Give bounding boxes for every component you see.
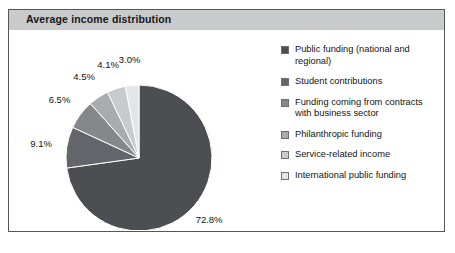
plot-area: 72.8%9.1%6.5%4.5%4.1%3.0% Public funding… — [9, 30, 444, 232]
pie-slice-label: 4.1% — [97, 58, 119, 69]
pie-chart: 72.8%9.1%6.5%4.5%4.1%3.0% — [22, 34, 262, 230]
legend-item-label: International public funding — [295, 170, 406, 182]
legend-item[interactable]: International public funding — [281, 170, 441, 182]
legend-item-label: Philanthropic funding — [295, 129, 382, 141]
page-title: Average income distribution — [26, 13, 171, 25]
legend-item[interactable]: Public funding (national and regional) — [281, 44, 441, 67]
legend-item[interactable]: Service-related income — [281, 149, 441, 161]
chart-title-bar: Average income distribution — [9, 10, 444, 30]
pie-slice-label: 3.0% — [119, 54, 141, 65]
pie-slice-label: 4.5% — [73, 70, 95, 81]
legend-swatch-icon — [281, 46, 289, 54]
legend-swatch-icon — [281, 78, 289, 86]
legend-item[interactable]: Philanthropic funding — [281, 129, 441, 141]
legend-swatch-icon — [281, 131, 289, 139]
pie-svg — [22, 34, 262, 230]
legend-swatch-icon — [281, 99, 289, 107]
legend-item-label: Funding coming from contracts with busin… — [295, 97, 441, 120]
legend-item-label: Public funding (national and regional) — [295, 44, 441, 67]
pie-slice-label: 9.1% — [30, 138, 52, 149]
legend-item-label: Service-related income — [295, 149, 390, 161]
pie-slice-label: 6.5% — [49, 94, 71, 105]
chart-panel: Average income distribution 72.8%9.1%6.5… — [8, 9, 445, 232]
chart-legend: Public funding (national and regional)St… — [281, 44, 441, 190]
legend-item[interactable]: Student contributions — [281, 76, 441, 88]
pie-slice-label: 72.8% — [196, 214, 223, 225]
legend-swatch-icon — [281, 151, 289, 159]
legend-swatch-icon — [281, 172, 289, 180]
legend-item-label: Student contributions — [295, 76, 382, 88]
legend-item[interactable]: Funding coming from contracts with busin… — [281, 97, 441, 120]
